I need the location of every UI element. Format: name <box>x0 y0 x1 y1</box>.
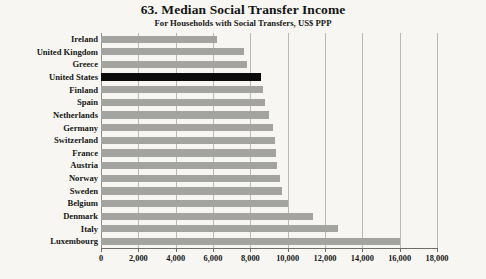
bar-row[interactable] <box>101 134 437 147</box>
category-label-sweden: Sweden <box>2 185 98 198</box>
tick-label-16000: 16,000 <box>388 254 411 263</box>
bar-row[interactable] <box>101 172 437 185</box>
bar-row[interactable] <box>101 109 437 122</box>
tick-mark <box>176 248 177 252</box>
bar-united-states[interactable] <box>101 73 261 81</box>
category-label-belgium: Belgium <box>2 197 98 210</box>
bar-italy[interactable] <box>101 225 338 232</box>
bar-switzerland[interactable] <box>101 137 275 144</box>
chart-subtitle: For Households with Social Transfers, US… <box>0 18 486 29</box>
category-label-spain: Spain <box>2 96 98 109</box>
bar-row[interactable] <box>101 96 437 109</box>
category-label-finland: Finland <box>2 84 98 97</box>
bar-row[interactable] <box>101 223 437 236</box>
bar-sweden[interactable] <box>101 187 282 194</box>
tick-label-12000: 12,000 <box>313 254 336 263</box>
category-label-luxembourg: Luxembourg <box>2 235 98 248</box>
tick-mark <box>437 248 438 252</box>
tick-mark <box>362 248 363 252</box>
bar-spain[interactable] <box>101 99 265 106</box>
category-label-france: France <box>2 147 98 160</box>
bar-row[interactable] <box>101 159 437 172</box>
category-axis-labels: IrelandUnited KingdomGreeceUnited States… <box>0 33 98 248</box>
tick-mark <box>213 248 214 252</box>
bar-row[interactable] <box>101 84 437 97</box>
tick-label-18000: 18,000 <box>425 254 448 263</box>
tick-label-2000: 2,000 <box>129 254 148 263</box>
bar-denmark[interactable] <box>101 213 313 220</box>
category-label-greece: Greece <box>2 58 98 71</box>
bar-row[interactable] <box>101 185 437 198</box>
bar-greece[interactable] <box>101 61 247 68</box>
x-axis-line <box>101 248 438 249</box>
chart-container: 63. Median Social Transfer Income For Ho… <box>0 0 486 279</box>
tick-mark <box>288 248 289 252</box>
bar-row[interactable] <box>101 235 437 248</box>
category-label-netherlands: Netherlands <box>2 109 98 122</box>
chart-title-block: 63. Median Social Transfer Income For Ho… <box>0 2 486 29</box>
bar-row[interactable] <box>101 210 437 223</box>
category-label-denmark: Denmark <box>2 210 98 223</box>
tick-label-8000: 8,000 <box>241 254 260 263</box>
bar-row[interactable] <box>101 33 437 46</box>
tick-mark <box>400 248 401 252</box>
tick-label-10000: 10,000 <box>276 254 299 263</box>
tick-label-4000: 4,000 <box>166 254 185 263</box>
bar-france[interactable] <box>101 149 276 156</box>
bar-netherlands[interactable] <box>101 111 269 118</box>
bar-row[interactable] <box>101 71 437 84</box>
category-label-switzerland: Switzerland <box>2 134 98 147</box>
bar-finland[interactable] <box>101 86 263 93</box>
tick-mark <box>325 248 326 252</box>
category-label-ireland: Ireland <box>2 33 98 46</box>
bar-row[interactable] <box>101 58 437 71</box>
gridline <box>437 33 438 248</box>
tick-mark <box>138 248 139 252</box>
bar-row[interactable] <box>101 122 437 135</box>
page-title: 63. Median Social Transfer Income <box>0 2 486 17</box>
tick-label-6000: 6,000 <box>204 254 223 263</box>
bar-ireland[interactable] <box>101 36 217 43</box>
category-label-germany: Germany <box>2 122 98 135</box>
bar-luxembourg[interactable] <box>101 238 400 245</box>
tick-mark <box>250 248 251 252</box>
category-label-austria: Austria <box>2 159 98 172</box>
bar-germany[interactable] <box>101 124 273 131</box>
bar-austria[interactable] <box>101 162 277 169</box>
category-label-united-kingdom: United Kingdom <box>2 46 98 59</box>
bar-belgium[interactable] <box>101 200 288 207</box>
bar-row[interactable] <box>101 197 437 210</box>
bar-norway[interactable] <box>101 175 280 182</box>
plot-area <box>101 33 437 248</box>
bar-united-kingdom[interactable] <box>101 48 244 55</box>
tick-mark <box>101 248 102 252</box>
category-label-norway: Norway <box>2 172 98 185</box>
category-label-united-states: United States <box>2 71 98 84</box>
tick-label-0: 0 <box>99 254 103 263</box>
bar-row[interactable] <box>101 147 437 160</box>
bar-row[interactable] <box>101 46 437 59</box>
tick-label-14000: 14,000 <box>351 254 374 263</box>
category-label-italy: Italy <box>2 223 98 236</box>
